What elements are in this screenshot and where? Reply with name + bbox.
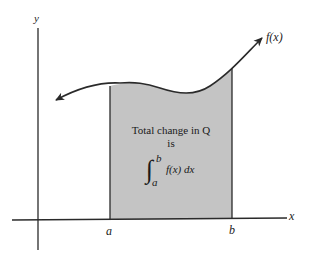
curve-label: f(x) [266, 30, 283, 45]
lower-bound-label: a [106, 224, 112, 239]
area-under-curve-diagram: y x a b f(x) Total change in Q is ∫ b a … [0, 0, 311, 255]
upper-bound-label: b [229, 223, 235, 238]
y-axis-label: y [34, 12, 39, 24]
integral-upper-limit: b [156, 152, 162, 164]
x-axis-label: x [289, 209, 294, 224]
annotation-line-1: Total change in Q [128, 124, 214, 137]
total-change-annotation: Total change in Q is [128, 124, 214, 150]
integral-lower-limit: a [152, 176, 158, 188]
definite-integral-expression: ∫ b a f(x) dx [146, 155, 216, 189]
annotation-line-2: is [128, 137, 214, 150]
integrand: f(x) dx [166, 163, 194, 175]
